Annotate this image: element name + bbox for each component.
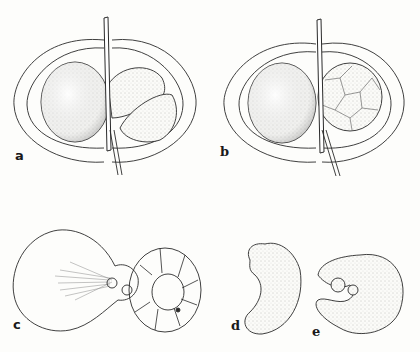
figure: a b c d e [0, 0, 420, 352]
panel-e [316, 254, 403, 333]
panel-a [14, 17, 196, 175]
panel-label-e: e [312, 324, 320, 339]
panel-b [224, 19, 404, 176]
panel-label-b: b [220, 144, 229, 159]
panel-label-a: a [15, 148, 24, 163]
panel-label-c: c [13, 317, 21, 332]
figure-drawing [0, 0, 420, 352]
panel-c [13, 230, 201, 332]
panel-d [245, 243, 301, 334]
panel-label-d: d [231, 318, 240, 333]
